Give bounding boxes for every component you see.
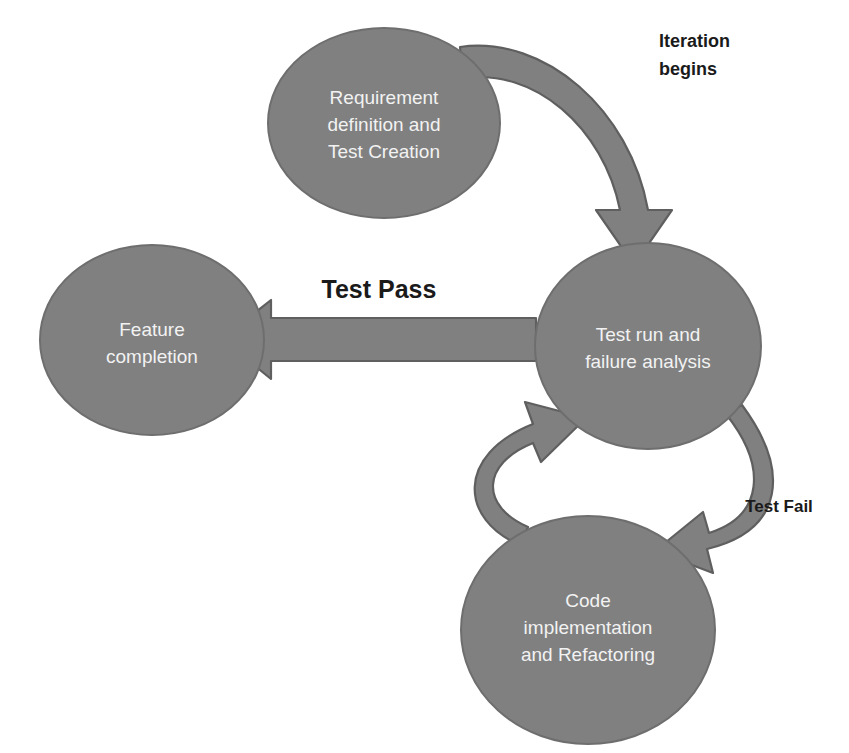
- tdd-cycle-diagram: Requirement definition and Test Creation…: [0, 0, 849, 753]
- edge-label-test-fail: Test Fail: [745, 497, 813, 516]
- node-test-run-shape: [535, 243, 761, 449]
- edge-label-test-pass: Test Pass: [322, 275, 437, 303]
- diagram-canvas: Requirement definition and Test Creation…: [0, 0, 849, 753]
- node-requirement-definition[interactable]: Requirement definition and Test Creation: [268, 28, 500, 218]
- node-code-implementation[interactable]: Code implementation and Refactoring: [461, 516, 715, 744]
- node-code-implementation-shape: [461, 516, 715, 744]
- test-pass-arrow-shape: [222, 300, 536, 379]
- node-feature-completion[interactable]: Feature completion: [40, 245, 264, 435]
- edge-label-iteration-begins-line1: Iteration: [659, 31, 730, 51]
- node-feature-completion-shape: [40, 245, 264, 435]
- node-test-run-failure-analysis[interactable]: Test run and failure analysis: [535, 243, 761, 449]
- edge-label-iteration-begins-line2: begins: [659, 59, 717, 79]
- node-requirement-shape: [268, 28, 500, 218]
- edge-test-pass: [222, 300, 536, 379]
